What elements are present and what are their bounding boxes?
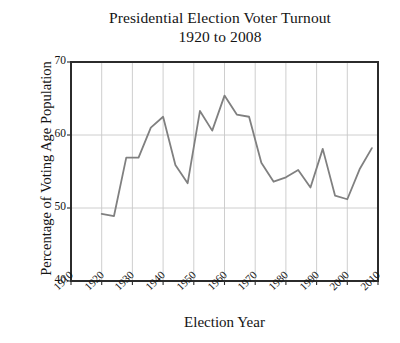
x-tick-label: 1960 xyxy=(205,268,229,292)
x-tick-label: 1950 xyxy=(174,268,198,292)
x-tick-label: 2010 xyxy=(358,268,382,292)
x-tick-label: 1910 xyxy=(51,268,75,292)
x-tick-label: 1940 xyxy=(143,268,167,292)
x-tick-label: 1920 xyxy=(82,268,106,292)
y-axis-label: Percentage of Voting Age Population xyxy=(38,39,55,299)
x-axis-tick-labels: 1910192019301940195019601970198019902000… xyxy=(0,0,400,343)
x-tick-label: 1990 xyxy=(297,268,321,292)
x-tick-label: 2000 xyxy=(327,268,351,292)
x-tick-label: 1930 xyxy=(112,268,136,292)
x-axis-label: Election Year xyxy=(71,314,378,331)
x-tick-label: 1980 xyxy=(266,268,290,292)
x-tick-label: 1970 xyxy=(235,268,259,292)
chart-figure: Presidential Election Voter Turnout 1920… xyxy=(0,0,400,343)
